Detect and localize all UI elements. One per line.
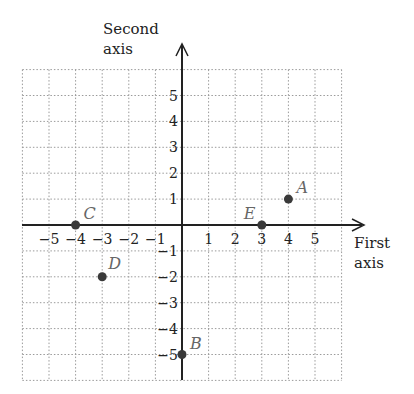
second-axis-label-line2: axis — [103, 40, 133, 58]
first-axis-label-line2: axis — [354, 254, 384, 272]
x-tick-label: 3 — [257, 231, 266, 247]
x-tick-label: 2 — [231, 231, 240, 247]
y-tick-label: −4 — [157, 321, 178, 337]
first-axis-ticks: −5−4−3−2−112345 — [39, 231, 320, 247]
y-tick-label: −1 — [157, 243, 178, 259]
x-tick-label: −5 — [39, 231, 60, 247]
point-d-label: D — [107, 254, 121, 273]
point-c-marker — [71, 221, 80, 230]
point-a-label: A — [294, 178, 308, 197]
coordinate-plane: Second axis First axis −5−4−3−2−112345 5… — [0, 0, 414, 394]
x-tick-label: 5 — [311, 231, 320, 247]
point-d-marker — [98, 272, 107, 281]
point-e-marker — [257, 221, 266, 230]
y-tick-label: 1 — [169, 191, 178, 207]
point-b-marker — [178, 350, 187, 359]
second-axis-label-line1: Second — [103, 20, 159, 38]
x-tick-label: −4 — [65, 231, 86, 247]
plotted-points: ABCDE — [71, 178, 308, 359]
y-tick-label: −5 — [157, 347, 178, 363]
point-a-marker — [284, 195, 293, 204]
y-tick-label: 3 — [169, 139, 178, 155]
y-tick-label: 5 — [169, 88, 178, 104]
point-e-label: E — [243, 204, 256, 223]
first-axis-label-line1: First — [354, 234, 390, 252]
y-tick-label: 2 — [169, 165, 178, 181]
y-tick-label: −3 — [157, 295, 178, 311]
y-tick-label: 4 — [169, 113, 178, 129]
x-tick-label: 4 — [284, 231, 293, 247]
x-tick-label: 1 — [204, 231, 213, 247]
y-tick-label: −2 — [157, 269, 178, 285]
point-b-label: B — [189, 334, 202, 353]
x-tick-label: −3 — [92, 231, 113, 247]
x-tick-label: −2 — [118, 231, 139, 247]
point-c-label: C — [84, 204, 96, 223]
